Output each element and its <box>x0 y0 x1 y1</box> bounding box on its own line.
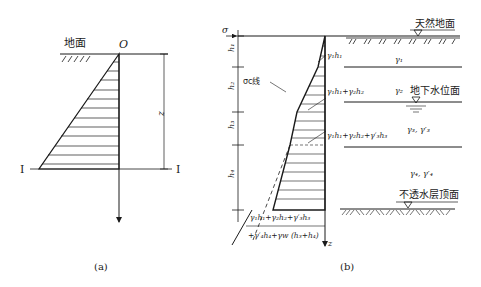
stress-label-4b: +γ′₄h₄+γw (h₃+h₄) <box>248 231 319 240</box>
impermeable-hatch-icon <box>342 210 450 215</box>
water-table-label: 地下水位面 <box>410 84 460 96</box>
water-lines-icon <box>406 106 426 112</box>
z-label-b: z <box>327 239 333 248</box>
stress-label-1: γ₁h₁ <box>327 51 342 60</box>
figure-b: h₁ h₂ h₃ h₄ σ z <box>222 17 462 272</box>
section-label-left: I <box>20 163 24 176</box>
section-label-right: I <box>176 163 180 176</box>
h1-label: h₁ <box>227 44 236 52</box>
caption-a: (a) <box>94 261 108 272</box>
impermeable-marker-icon <box>404 202 412 208</box>
h3-label: h₃ <box>227 121 236 129</box>
stress-label-3: γ₁h₁+γ₂h₂+γ′₃h₃ <box>327 131 387 140</box>
natural-ground-hatch-icon <box>346 38 460 44</box>
ground-hatch-icon <box>62 56 90 62</box>
caption-b: (b) <box>340 261 354 272</box>
figure-a: 地面 O z I I (a) <box>20 37 180 272</box>
stress-label-4a: γ₁h₁+γ₂h₂+γ′₃h₃ <box>250 213 310 222</box>
ground-surface-label: 天然地面 <box>415 17 455 29</box>
gamma-4: γ₄, γ′₄ <box>410 169 433 178</box>
sigma-label: σ <box>222 25 229 35</box>
stress-label-2: γ₁h₁+γ₂h₂ <box>327 87 364 96</box>
stress-profile <box>273 36 325 210</box>
depth-label: z <box>156 111 166 117</box>
diagram-canvas: 地面 O z I I (a) h₁ h₂ h₃ h₄ σ <box>0 0 481 287</box>
ground-marker-icon <box>414 30 422 36</box>
ground-label: 地面 <box>64 37 86 50</box>
h2-label: h₂ <box>227 82 236 90</box>
h4-label: h₄ <box>227 170 236 178</box>
gamma-1: γ₁ <box>395 55 403 64</box>
origin-label: O <box>119 38 128 51</box>
sigma-line-label: σc线 <box>243 76 260 86</box>
impermeable-label: 不透水层顶面 <box>399 189 459 200</box>
gamma-2: γ₂ <box>395 86 403 95</box>
gamma-3: γ₃, γ′₃ <box>407 125 430 134</box>
